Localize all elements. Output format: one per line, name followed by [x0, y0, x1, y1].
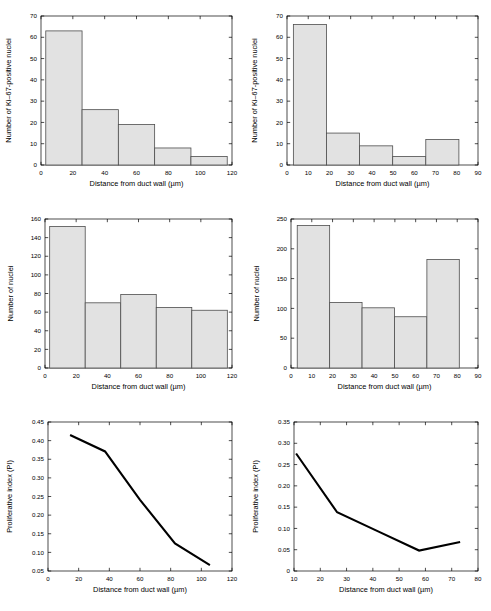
x-tick-label: 0 — [285, 169, 289, 176]
y-tick-label: 250 — [277, 215, 288, 222]
histogram-bar — [121, 294, 157, 368]
y-axis-label: Proliferative index (PI) — [251, 460, 260, 533]
y-tick-label: 150 — [277, 275, 288, 282]
x-tick-label: 100 — [196, 575, 207, 582]
y-tick-label: 0.15 — [32, 530, 45, 537]
histogram-bar — [362, 308, 394, 368]
histogram-bar — [118, 125, 154, 165]
y-tick-label: 160 — [31, 215, 42, 222]
y-tick-label: 0.25 — [278, 461, 291, 468]
x-tick-label: 40 — [101, 169, 108, 176]
x-tick-label: 50 — [396, 575, 403, 582]
y-tick-label: 120 — [31, 252, 42, 259]
histogram-bar — [326, 133, 359, 165]
histogram-bar — [394, 317, 426, 368]
histogram-bar — [192, 310, 228, 368]
y-tick-label: 50 — [280, 334, 287, 341]
y-tick-label: 100 — [31, 271, 42, 278]
y-tick-label: 0.20 — [32, 511, 45, 518]
y-tick-label: 0.35 — [278, 418, 291, 425]
y-tick-label: 140 — [31, 234, 42, 241]
y-tick-label: 0.10 — [32, 549, 45, 556]
x-tick-label: 120 — [227, 169, 238, 176]
y-tick-label: 40 — [276, 76, 283, 83]
y-axis-label: Number of nuclei — [6, 265, 15, 321]
y-tick-label: 0.35 — [32, 455, 45, 462]
panel-bottom-right: 102030405060708000.050.100.150.200.250.3… — [246, 406, 491, 609]
y-tick-label: 60 — [30, 33, 37, 40]
y-axis-label: Number of nuclei — [252, 265, 261, 321]
x-tick-label: 90 — [475, 372, 482, 379]
x-tick-label: 20 — [326, 169, 333, 176]
x-tick-label: 40 — [369, 575, 376, 582]
x-tick-label: 30 — [347, 169, 354, 176]
histogram-bar — [360, 146, 393, 165]
histogram-bar — [85, 303, 121, 368]
y-tick-label: 0 — [38, 364, 42, 371]
x-tick-label: 120 — [227, 575, 238, 582]
x-axis-label: Distance from duct wall (µm) — [339, 585, 433, 594]
panel-top-left: 020406080100120010203040506070Distance f… — [0, 0, 245, 203]
y-tick-label: 200 — [277, 245, 288, 252]
x-axis-label: Distance from duct wall (µm) — [92, 382, 186, 391]
x-tick-label: 120 — [227, 372, 238, 379]
x-tick-label: 80 — [165, 169, 172, 176]
y-tick-label: 0 — [34, 161, 38, 168]
x-tick-label: 10 — [291, 575, 298, 582]
x-tick-label: 40 — [368, 169, 375, 176]
panel-top-right: 0102030405060708090010203040506070Distan… — [246, 0, 491, 203]
x-tick-label: 50 — [390, 169, 397, 176]
y-tick-label: 60 — [276, 33, 283, 40]
x-tick-label: 70 — [433, 372, 440, 379]
histogram-bar — [156, 307, 192, 368]
x-tick-label: 80 — [167, 575, 174, 582]
y-tick-label: 40 — [34, 327, 41, 334]
histogram-bar — [393, 156, 426, 165]
x-tick-label: 100 — [195, 169, 206, 176]
y-tick-label: 0.15 — [278, 503, 291, 510]
y-tick-label: 50 — [30, 55, 37, 62]
histogram-bar — [82, 110, 118, 165]
figure-container: 020406080100120010203040506070Distance f… — [0, 0, 491, 611]
y-tick-label: 0.40 — [32, 437, 45, 444]
x-tick-label: 60 — [133, 169, 140, 176]
y-tick-label: 70 — [276, 12, 283, 19]
panel-middle-right: 0102030405060708090050100150200250Distan… — [246, 203, 491, 406]
y-tick-label: 10 — [276, 140, 283, 147]
y-tick-label: 0.10 — [278, 525, 291, 532]
y-tick-label: 40 — [30, 76, 37, 83]
y-tick-label: 20 — [276, 119, 283, 126]
y-tick-label: 0.25 — [32, 493, 45, 500]
y-tick-label: 0 — [287, 567, 291, 574]
y-tick-label: 0 — [280, 161, 284, 168]
plot-frame — [294, 422, 478, 571]
y-tick-label: 20 — [30, 119, 37, 126]
x-tick-label: 30 — [350, 372, 357, 379]
y-tick-label: 80 — [34, 290, 41, 297]
x-tick-label: 60 — [412, 372, 419, 379]
x-tick-label: 60 — [411, 169, 418, 176]
data-line — [70, 435, 210, 565]
x-tick-label: 20 — [73, 372, 80, 379]
x-tick-label: 70 — [448, 575, 455, 582]
x-axis-label: Distance from duct wall (µm) — [338, 382, 432, 391]
x-axis-label: Distance from duct wall (µm) — [336, 179, 430, 188]
x-tick-label: 0 — [39, 169, 43, 176]
y-tick-label: 10 — [30, 140, 37, 147]
x-tick-label: 20 — [329, 372, 336, 379]
x-tick-label: 20 — [317, 575, 324, 582]
y-tick-label: 0.20 — [278, 482, 291, 489]
x-tick-label: 40 — [106, 575, 113, 582]
histogram-bar — [50, 226, 86, 368]
y-axis-label: Proliferative index (PI) — [5, 460, 14, 533]
histogram-bar — [46, 31, 82, 165]
histogram-bar — [155, 148, 191, 165]
plot-frame — [48, 422, 232, 571]
x-tick-label: 100 — [196, 372, 207, 379]
y-tick-label: 0.45 — [32, 418, 45, 425]
x-axis-label: Distance from duct wall (µm) — [93, 585, 187, 594]
y-axis-label: Number of Ki–67-positive nuclei — [250, 38, 259, 143]
x-tick-label: 60 — [422, 575, 429, 582]
panel-bottom-left: 0204060801001200.050.100.150.200.250.300… — [0, 406, 245, 609]
x-tick-label: 10 — [308, 372, 315, 379]
